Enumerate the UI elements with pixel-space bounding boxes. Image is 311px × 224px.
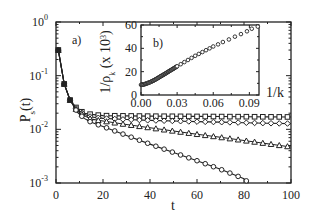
inset-x-axis-title: 1/k: [266, 85, 284, 100]
inset-y-axis-title: 1/ρk (x 103): [98, 30, 117, 94]
panel-a-label: a): [72, 33, 81, 47]
inset-x-tick-label: 0.06: [203, 96, 224, 110]
y-tick-label: 100: [32, 13, 48, 29]
x-tick-label: 20: [97, 188, 109, 202]
inset-plot-area: 0.000.030.060.090204060 b) 1/k 1/ρk (x 1…: [98, 18, 284, 110]
y-tick-label: 10-3: [29, 174, 48, 190]
inset-x-tick-label: 0.03: [167, 96, 188, 110]
y-tick-label: 10-1: [29, 67, 48, 83]
inset-y-tick-label: 60: [125, 18, 137, 32]
inset-y-tick-label: 20: [125, 65, 137, 79]
x-tick-label: 100: [282, 188, 300, 202]
x-axis-title: t: [171, 198, 175, 213]
x-tick-label: 60: [191, 188, 203, 202]
inset-x-tick-label: 0.09: [239, 96, 260, 110]
x-tick-label: 80: [238, 188, 250, 202]
figure: 02040608010010010-110-210-3 a) t Ps(t) 0…: [0, 0, 311, 224]
inset-y-tick-label: 40: [125, 41, 137, 55]
panel-b-label: b): [153, 36, 163, 50]
y-axis-title: Ps(t): [18, 97, 37, 122]
x-tick-label: 0: [53, 188, 59, 202]
x-tick-label: 40: [144, 188, 156, 202]
inset-y-tick-label: 0: [131, 88, 137, 102]
